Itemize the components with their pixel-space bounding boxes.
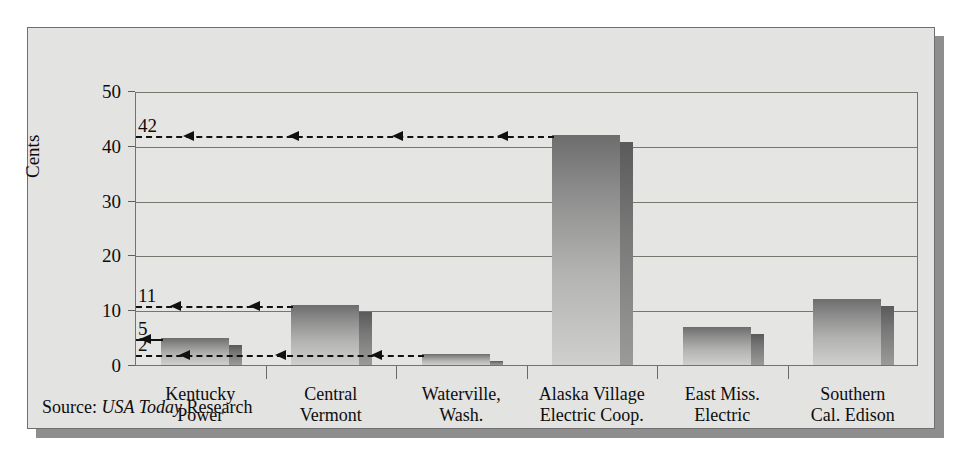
annotation-arrowhead-42 <box>288 131 299 141</box>
annotation-arrowhead-42 <box>497 131 508 141</box>
y-tick-label-0: 0 <box>77 356 121 375</box>
bar-side-face <box>751 334 764 365</box>
y-tick-label-40: 40 <box>77 137 121 156</box>
annotation-arrowhead-11 <box>170 301 181 311</box>
bar-east-miss-electric[interactable] <box>683 327 751 365</box>
plot-area: 421152 <box>135 92 918 366</box>
bar-southern-cal-edison[interactable] <box>813 299 881 365</box>
gridline-10 <box>136 311 917 312</box>
y-tick-label-30: 30 <box>77 192 121 211</box>
annotation-value-42: 42 <box>138 116 157 135</box>
gridline-40 <box>136 147 917 148</box>
gridline-30 <box>136 202 917 203</box>
x-tick-3 <box>527 366 528 379</box>
gridline-20 <box>136 256 917 257</box>
gridline-50 <box>136 92 917 93</box>
x-category-label-line: Wash. <box>396 405 527 426</box>
y-axis-title: Cents <box>22 135 44 178</box>
y-tick-mark-40 <box>128 146 135 147</box>
x-category-label-line: Electric <box>657 405 788 426</box>
x-category-label-line: Vermont <box>266 405 397 426</box>
y-tick-label-50: 50 <box>77 82 121 101</box>
annotation-arrowhead-2 <box>371 350 382 360</box>
x-category-label-line: Alaska Village <box>527 384 658 405</box>
x-tick-5 <box>788 366 789 379</box>
x-category-label-line: Cal. Edison <box>788 405 919 426</box>
bar-side-face <box>881 306 894 365</box>
x-tick-1 <box>266 366 267 379</box>
annotation-arrowhead-42 <box>183 131 194 141</box>
x-category-label-line: Central <box>266 384 397 405</box>
bar-side-face <box>620 142 633 365</box>
y-tick-label-10: 10 <box>77 301 121 320</box>
annotation-arrowhead-42 <box>392 131 403 141</box>
source-prefix: Source: <box>42 397 97 417</box>
y-tick-mark-0 <box>128 365 135 366</box>
x-tick-4 <box>657 366 658 379</box>
annotation-arrowhead-2 <box>275 350 286 360</box>
x-tick-2 <box>396 366 397 379</box>
y-tick-mark-50 <box>128 91 135 92</box>
x-category-label-alaska-village-electric-coop: Alaska VillageElectric Coop. <box>527 384 658 426</box>
source-publication: USA Today <box>101 397 182 417</box>
bar-kentucky-power[interactable] <box>161 338 229 365</box>
annotation-line-11 <box>136 306 293 308</box>
chart-figure: Cents 01020304050 421152 KentuckyPowerCe… <box>27 27 935 429</box>
x-category-label-southern-cal-edison: SouthernCal. Edison <box>788 384 919 426</box>
y-tick-mark-10 <box>128 310 135 311</box>
annotation-value-2: 2 <box>138 335 148 354</box>
y-tick-mark-30 <box>128 201 135 202</box>
bar-side-face <box>490 361 503 365</box>
annotation-arrowhead-2 <box>179 350 190 360</box>
annotation-value-11: 11 <box>138 286 156 305</box>
source-suffix: Research <box>187 397 253 417</box>
y-tick-label-20: 20 <box>77 246 121 265</box>
annotation-arrowhead-11 <box>249 301 260 311</box>
x-category-label-line: East Miss. <box>657 384 788 405</box>
x-category-label-east-miss-electric: East Miss.Electric <box>657 384 788 426</box>
x-category-label-line: Southern <box>788 384 919 405</box>
x-category-label-waterville-wash: Waterville,Wash. <box>396 384 527 426</box>
bar-alaska-village-electric-coop[interactable] <box>552 135 620 365</box>
annotation-line-42 <box>136 136 554 138</box>
x-category-label-line: Waterville, <box>396 384 527 405</box>
y-tick-mark-20 <box>128 255 135 256</box>
bar-waterville-wash[interactable] <box>422 354 490 365</box>
x-category-label-line: Electric Coop. <box>527 405 658 426</box>
x-category-label-central-vermont: CentralVermont <box>266 384 397 426</box>
source-note: Source: USA Today Research <box>42 397 252 418</box>
